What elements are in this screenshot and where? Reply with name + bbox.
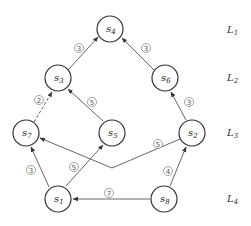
weight-s6-s4: 3 [142, 44, 151, 53]
weight-s2-s7: 5 [154, 140, 163, 149]
svg-text:2: 2 [37, 97, 41, 105]
edge-s3-s4 [68, 37, 98, 70]
nodes: s4 s3 s6 s7 s5 s2 s1 s8 [13, 16, 205, 212]
svg-text:5: 5 [90, 99, 94, 107]
svg-text:4: 4 [166, 168, 171, 176]
svg-text:7: 7 [107, 190, 111, 198]
svg-text:3: 3 [77, 45, 81, 53]
svg-text:5: 5 [72, 164, 76, 172]
level-l2: L2 [226, 72, 239, 85]
weight-s5-s3: 5 [88, 98, 97, 107]
level-l3: L3 [226, 127, 239, 140]
level-labels: L1 L2 L3 L4 [226, 24, 239, 206]
node-s6: s6 [152, 65, 178, 91]
svg-text:3: 3 [144, 45, 148, 53]
node-s5: s5 [99, 120, 125, 146]
edge-s2-s6 [171, 92, 186, 120]
node-s1: s1 [45, 186, 71, 212]
weight-s8-s1: 7 [105, 189, 114, 198]
weight-s8-s2: 4 [164, 167, 173, 176]
node-s8: s8 [151, 186, 177, 212]
level-l4: L4 [226, 193, 238, 206]
weight-s3-s4: 3 [75, 44, 84, 53]
node-s3: s3 [45, 65, 71, 91]
weight-s7-s3: 2 [35, 96, 44, 105]
svg-text:3: 3 [187, 99, 191, 107]
node-s4: s4 [97, 16, 123, 42]
edge-s8-s2 [170, 147, 186, 186]
svg-text:5: 5 [156, 141, 160, 149]
edge-s6-s4 [122, 38, 154, 70]
node-s7: s7 [13, 120, 39, 146]
edge-s5-s3 [68, 89, 103, 121]
weight-s2-s6: 3 [185, 98, 194, 107]
edges [31, 37, 186, 199]
weight-s1-s5: 5 [70, 163, 79, 172]
weight-s1-s7: 3 [27, 166, 36, 175]
node-s2: s2 [179, 120, 205, 146]
level-l1: L1 [226, 24, 238, 37]
layered-graph-diagram: 3 3 2 5 3 3 5 5 4 7 s4 s3 s6 s7 s5 s2 s1… [0, 0, 251, 226]
svg-text:3: 3 [29, 167, 33, 175]
